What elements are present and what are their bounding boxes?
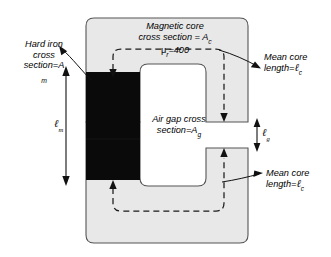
dimension-label-lm-subscript: m (58, 126, 63, 133)
dimension-label-lg-subscript: g (266, 135, 269, 142)
permeability-value: =400 (168, 45, 189, 55)
dimension-label-lg: ℓg (262, 127, 270, 140)
air-gap-label: Air gap cross section=Ag (131, 114, 227, 139)
mean-core-length-bottom-line1: Mean core (266, 168, 309, 178)
magnetic-core-label-line2-prefix: cross section = (138, 32, 202, 42)
magnetic-core-label-line1: Magnetic core (146, 21, 204, 31)
dimension-line-lg (254, 118, 261, 152)
permeability-label: μr=400 (130, 45, 220, 59)
mean-core-length-top-line2-prefix: length= (264, 63, 294, 73)
hard-iron-label-symbol: A (58, 60, 64, 70)
magnetic-core-label: Magnetic core cross section = Ac (120, 21, 230, 46)
mean-core-length-top-subscript: c (299, 69, 302, 76)
diagram-canvas: Magnetic core cross section = Ac μr=400 … (0, 0, 331, 257)
air-gap-label-line1: Air gap cross (152, 114, 206, 124)
mean-core-length-bottom-label: Mean core length=ℓc (266, 168, 331, 193)
air-gap-label-subscript: g (197, 131, 201, 138)
air-gap-label-line2-prefix: section= (157, 125, 191, 135)
mean-core-length-bottom-subscript: c (301, 185, 304, 192)
hard-iron-subscript-standalone: m (4, 76, 84, 87)
hard-iron-label-line2: cross (33, 50, 55, 60)
mean-core-length-top-line1: Mean core (264, 52, 307, 62)
hard-iron-label-line1: Hard iron (25, 39, 63, 49)
mean-core-length-top-label: Mean core length=ℓc (264, 52, 330, 77)
dimension-label-lm: ℓm (54, 118, 63, 131)
mean-core-length-bottom-line2-prefix: length= (266, 179, 296, 189)
magnetic-core-label-subscript: c (208, 38, 211, 45)
hard-iron-label: Hard iron cross section=A (4, 39, 84, 71)
hard-iron-label-line3-prefix: section= (24, 60, 58, 70)
